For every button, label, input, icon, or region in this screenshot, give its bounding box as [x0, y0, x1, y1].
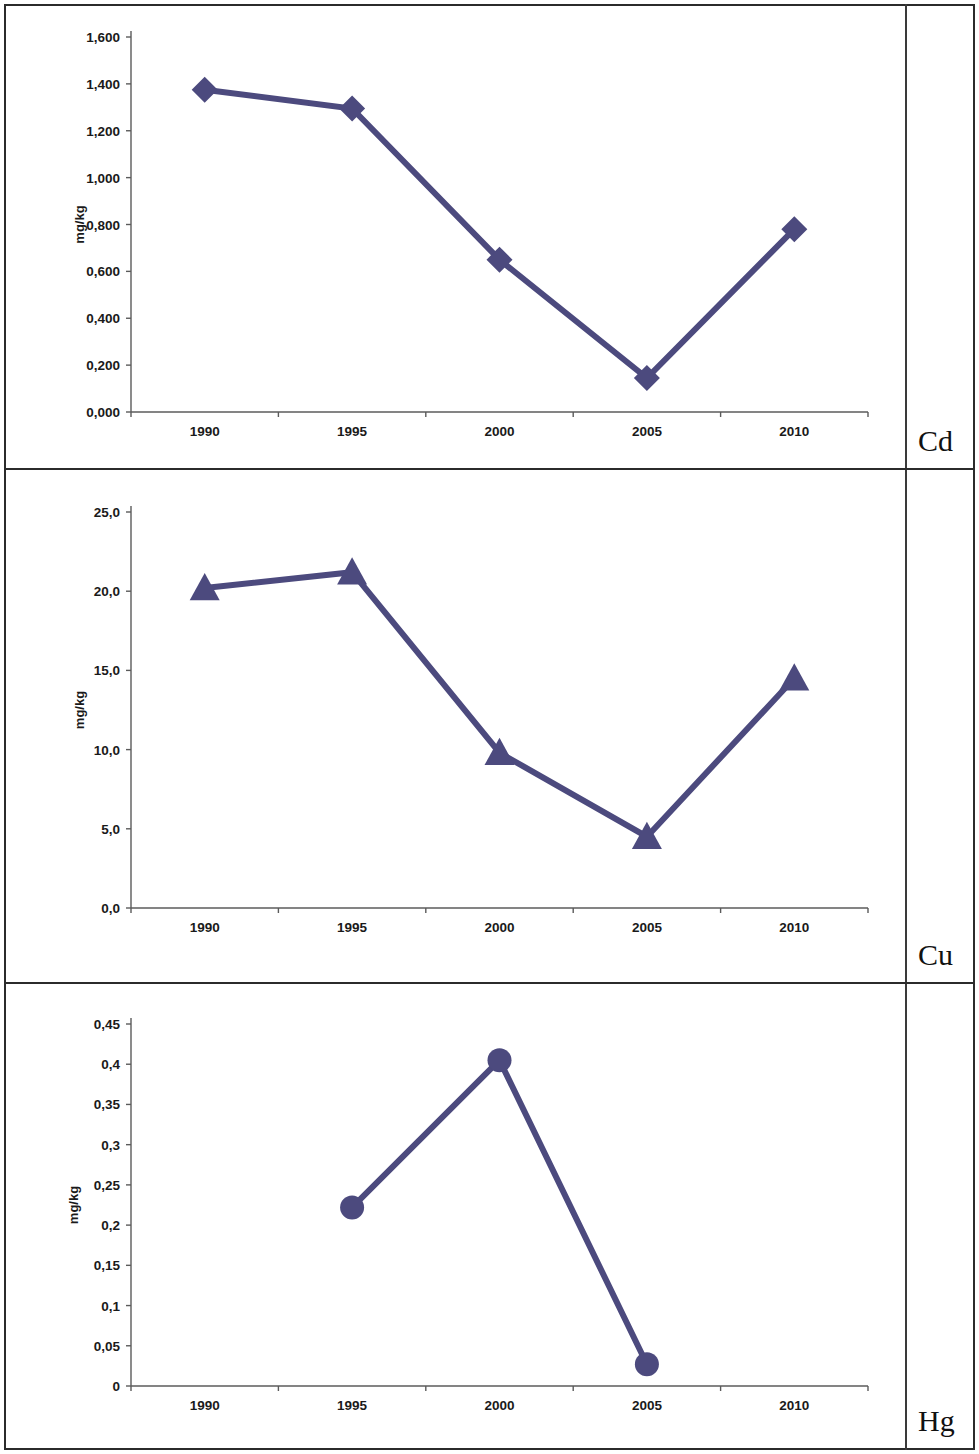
y-tick-label: 1,000: [86, 171, 120, 186]
series-line: [205, 572, 795, 837]
data-point-marker: [488, 1048, 512, 1072]
y-tick-label: 0,45: [94, 1017, 121, 1032]
y-tick-label: 1,600: [86, 30, 120, 45]
y-tick-label: 0,4: [101, 1057, 120, 1072]
series-line: [205, 90, 795, 378]
x-tick-label: 1990: [190, 920, 220, 935]
y-tick-label: 0,800: [86, 218, 120, 233]
y-axis-title: mg/kg: [66, 1186, 81, 1224]
y-tick-label: 0: [112, 1379, 120, 1394]
chart-panel-hg: 00,050,10,150,20,250,30,350,40,451990199…: [6, 984, 903, 1450]
element-label-cu: Cu: [918, 938, 953, 972]
y-tick-label: 15,0: [94, 663, 120, 678]
x-tick-label: 1990: [190, 1398, 220, 1413]
line-chart-cd: 0,0000,2000,4000,6000,8001,0001,2001,400…: [6, 6, 903, 468]
series-line: [352, 1060, 647, 1364]
y-tick-label: 10,0: [94, 743, 120, 758]
y-tick-label: 0,15: [94, 1258, 121, 1273]
y-tick-label: 0,000: [86, 405, 120, 420]
y-tick-label: 0,600: [86, 264, 120, 279]
x-tick-label: 2005: [632, 1398, 663, 1413]
x-tick-label: 2005: [632, 920, 663, 935]
x-tick-label: 2000: [484, 920, 514, 935]
x-tick-label: 1995: [337, 1398, 368, 1413]
x-tick-label: 2010: [779, 1398, 809, 1413]
line-chart-cu: 0,05,010,015,020,025,0199019952000200520…: [6, 470, 903, 982]
x-tick-label: 2000: [484, 424, 514, 439]
x-tick-label: 1990: [190, 424, 220, 439]
y-tick-label: 20,0: [94, 584, 120, 599]
y-tick-label: 0,400: [86, 311, 120, 326]
x-tick-label: 2005: [632, 424, 663, 439]
y-tick-label: 0,35: [94, 1097, 121, 1112]
data-point-marker: [779, 663, 809, 690]
y-tick-label: 0,05: [94, 1339, 121, 1354]
x-tick-label: 1995: [337, 424, 368, 439]
element-label-hg: Hg: [918, 1404, 955, 1438]
data-point-marker: [192, 77, 218, 103]
column-divider: [905, 4, 907, 1450]
y-tick-label: 0,3: [101, 1138, 120, 1153]
element-label-cd: Cd: [918, 424, 953, 458]
chart-panel-cd: 0,0000,2000,4000,6000,8001,0001,2001,400…: [6, 6, 903, 468]
y-tick-label: 0,2: [101, 1218, 120, 1233]
y-tick-label: 1,200: [86, 124, 120, 139]
y-tick-label: 0,0: [101, 901, 120, 916]
y-axis-title: mg/kg: [72, 205, 87, 243]
y-axis-title: mg/kg: [72, 691, 87, 729]
chart-panel-cu: 0,05,010,015,020,025,0199019952000200520…: [6, 470, 903, 982]
x-tick-label: 1995: [337, 920, 368, 935]
y-tick-label: 1,400: [86, 77, 120, 92]
y-tick-label: 5,0: [101, 822, 120, 837]
x-tick-label: 2010: [779, 920, 809, 935]
x-tick-label: 2010: [779, 424, 809, 439]
y-tick-label: 0,1: [101, 1299, 120, 1314]
y-tick-label: 0,25: [94, 1178, 121, 1193]
y-tick-label: 0,200: [86, 358, 120, 373]
line-chart-hg: 00,050,10,150,20,250,30,350,40,451990199…: [6, 984, 903, 1450]
data-point-marker: [340, 1195, 364, 1219]
y-tick-label: 25,0: [94, 505, 120, 520]
data-point-marker: [635, 1352, 659, 1376]
x-tick-label: 2000: [484, 1398, 514, 1413]
